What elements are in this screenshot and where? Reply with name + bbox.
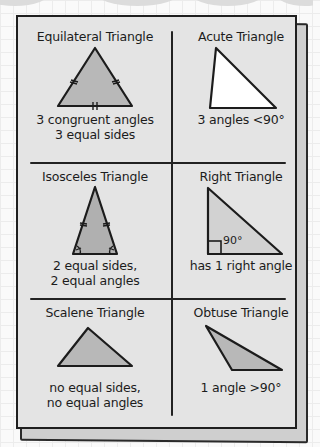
isosceles-triangle-icon: [65, 184, 125, 258]
cell-desc-line: 3 equal sides: [30, 127, 160, 142]
decorative-blob: [0, 0, 50, 6]
cell-desc-line: no equal sides,: [30, 380, 160, 395]
cell-title: Equilateral Triangle: [30, 29, 160, 44]
cell-desc-line: 2 equal sides,: [30, 258, 160, 273]
cell-title: Scalene Triangle: [30, 305, 160, 320]
obtuse-triangle-icon: [196, 320, 286, 382]
right-angle-label: 90°: [223, 234, 243, 247]
decorative-blob: [275, 0, 313, 6]
cell-acute: Acute Triangle 3 angles <90°: [176, 29, 306, 127]
equilateral-triangle-icon: [50, 44, 140, 112]
scalene-triangle-icon: [50, 320, 140, 382]
triangle-reference-sheet: Equilateral Triangle 3 congruent angles …: [16, 15, 297, 429]
decorative-blob: [190, 0, 265, 6]
vertical-divider: [171, 31, 173, 416]
cell-right: Right Triangle 90° has 1 right angle: [176, 169, 306, 273]
cell-desc-line: 2 equal angles: [30, 273, 160, 288]
cell-scalene: Scalene Triangle no equal sides, no equa…: [30, 305, 160, 410]
cell-title: Acute Triangle: [176, 29, 306, 44]
cell-desc-line: no equal angles: [30, 395, 160, 410]
horizontal-divider-2: [30, 298, 286, 300]
cell-title: Right Triangle: [176, 169, 306, 184]
cell-title: Obtuse Triangle: [176, 305, 306, 320]
cell-isosceles: Isosceles Triangle 2 equal sides, 2 equa…: [30, 169, 160, 288]
cell-title: Isosceles Triangle: [30, 169, 160, 184]
cell-desc-line: 1 angle >90°: [176, 380, 306, 395]
cell-desc-line: has 1 right angle: [176, 258, 306, 273]
cell-equilateral: Equilateral Triangle 3 congruent angles …: [30, 29, 160, 142]
cell-obtuse: Obtuse Triangle 1 angle >90°: [176, 305, 306, 395]
cell-desc-line: 3 angles <90°: [176, 112, 306, 127]
cell-desc-line: 3 congruent angles: [30, 112, 160, 127]
decorative-blob: [95, 0, 180, 6]
acute-triangle-icon: [196, 44, 286, 112]
right-triangle-icon: 90°: [196, 184, 286, 258]
horizontal-divider-1: [30, 162, 286, 164]
